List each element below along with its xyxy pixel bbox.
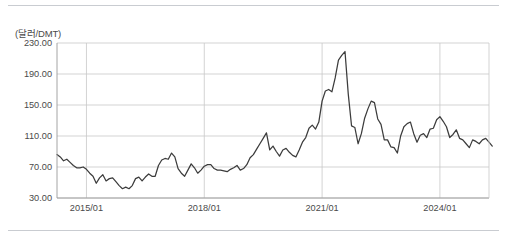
series-line	[57, 52, 492, 189]
data-series-layer	[57, 52, 492, 189]
y-tick-label: 230.00	[24, 38, 52, 48]
y-tick-label: 110.00	[25, 131, 52, 141]
chart-svg: 30.0070.00110.00150.00190.00230.00 2015/…	[0, 0, 507, 239]
y-tick-label: 150.00	[24, 100, 52, 110]
x-axis-tick-labels: 2015/012018/012021/012024/01	[70, 203, 457, 213]
x-tick-label: 2015/01	[70, 203, 103, 213]
y-tick-label: 70.00	[29, 162, 52, 172]
axis-lines	[57, 43, 489, 198]
x-tick-label: 2024/01	[423, 203, 456, 213]
x-tick-label: 2018/01	[188, 203, 221, 213]
y-tick-label: 190.00	[24, 69, 52, 79]
gridlines	[57, 43, 489, 198]
price-line-chart: 30.0070.00110.00150.00190.00230.00 2015/…	[0, 0, 507, 239]
x-tick-label: 2021/01	[305, 203, 338, 213]
y-axis-tick-labels: 30.0070.00110.00150.00190.00230.00	[24, 38, 52, 203]
y-tick-label: 30.00	[29, 193, 52, 203]
